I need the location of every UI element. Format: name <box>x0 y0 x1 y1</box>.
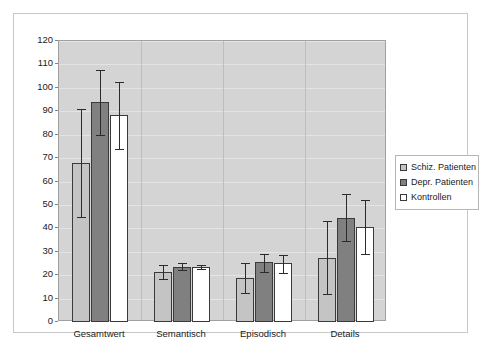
legend-label: Depr. Patienten <box>411 178 473 187</box>
y-axis-tick-label: 60 <box>22 176 53 186</box>
group-separator <box>141 41 142 320</box>
y-axis-tick <box>55 204 58 205</box>
chart-frame: 0102030405060708090100110120 GesamtwertS… <box>13 13 468 333</box>
y-axis-tick-label: 0 <box>22 316 53 326</box>
gridline <box>59 41 385 42</box>
y-axis-tick <box>55 134 58 135</box>
error-bar-cap-upper <box>197 265 206 266</box>
error-bar-cap-lower <box>260 272 269 273</box>
y-axis-tick <box>55 298 58 299</box>
y-axis-tick-label: 70 <box>22 152 53 162</box>
y-axis-tick <box>55 157 58 158</box>
error-bar-cap-upper <box>279 255 288 256</box>
y-axis-tick <box>55 63 58 64</box>
error-bar-cap-lower <box>115 149 124 150</box>
error-bar-cap-upper <box>342 194 351 195</box>
group-separator <box>223 41 224 320</box>
error-bar-stem <box>264 254 265 272</box>
error-bar-stem <box>365 200 366 254</box>
error-bar-cap-lower <box>77 217 86 218</box>
y-axis-tick-label: 20 <box>22 269 53 279</box>
error-bar-cap-upper <box>361 200 370 201</box>
x-axis-category-label: Gesamtwert <box>58 329 140 339</box>
error-bar-stem <box>163 265 164 279</box>
error-bar-cap-upper <box>178 263 187 264</box>
error-bar-cap-lower <box>178 270 187 271</box>
error-bar-stem <box>182 263 183 270</box>
error-bar-cap-upper <box>260 254 269 255</box>
error-bar-stem <box>119 82 120 149</box>
error-bar-cap-lower <box>159 279 168 280</box>
bar-chart: 0102030405060708090100110120 GesamtwertS… <box>0 0 483 355</box>
y-axis-tick <box>55 181 58 182</box>
error-bar-cap-upper <box>323 221 332 222</box>
plot-area <box>58 40 386 321</box>
legend-label: Kontrollen <box>411 193 452 202</box>
error-bar-cap-upper <box>159 265 168 266</box>
y-axis-tick <box>55 227 58 228</box>
error-bar-stem <box>81 109 82 217</box>
y-axis-tick-label: 100 <box>22 82 53 92</box>
bar <box>173 267 191 322</box>
error-bar-cap-upper <box>77 109 86 110</box>
y-axis-tick <box>55 251 58 252</box>
y-axis-tick-label: 10 <box>22 293 53 303</box>
gridline <box>59 64 385 65</box>
legend-label: Schiz. Patienten <box>411 163 476 172</box>
error-bar-cap-lower <box>323 294 332 295</box>
y-axis-tick <box>55 40 58 41</box>
gridline <box>59 88 385 89</box>
legend-swatch-icon <box>400 194 407 201</box>
x-axis-category-label: Details <box>304 329 386 339</box>
chart-legend: Schiz. PatientenDepr. PatientenKontrolle… <box>395 155 479 210</box>
bar <box>192 267 210 322</box>
legend-swatch-icon <box>400 179 407 186</box>
x-axis-category-label: Episodisch <box>222 329 304 339</box>
y-axis-tick-label: 120 <box>22 35 53 45</box>
error-bar-cap-lower <box>342 241 351 242</box>
error-bar-stem <box>100 70 101 134</box>
y-axis-tick-label: 30 <box>22 246 53 256</box>
y-axis-tick <box>55 87 58 88</box>
error-bar-stem <box>327 221 328 294</box>
error-bar-cap-lower <box>96 135 105 136</box>
y-axis-tick-label: 110 <box>22 59 53 69</box>
y-axis-tick-label: 50 <box>22 199 53 209</box>
y-axis-tick <box>55 274 58 275</box>
error-bar-stem <box>245 263 246 292</box>
legend-item[interactable]: Schiz. Patienten <box>400 160 474 175</box>
legend-swatch-icon <box>400 164 407 171</box>
error-bar-cap-upper <box>96 70 105 71</box>
error-bar-cap-upper <box>115 82 124 83</box>
x-axis-category-label: Semantisch <box>140 329 222 339</box>
y-axis-tick-label: 90 <box>22 106 53 116</box>
legend-item[interactable]: Kontrollen <box>400 190 474 205</box>
error-bar-cap-lower <box>279 273 288 274</box>
y-axis-tick <box>55 321 58 322</box>
legend-item[interactable]: Depr. Patienten <box>400 175 474 190</box>
y-axis-tick <box>55 110 58 111</box>
error-bar-cap-upper <box>241 263 250 264</box>
y-axis-tick-label: 80 <box>22 129 53 139</box>
group-separator <box>305 41 306 320</box>
error-bar-cap-lower <box>361 254 370 255</box>
error-bar-stem <box>283 255 284 273</box>
error-bar-cap-lower <box>197 269 206 270</box>
error-bar-stem <box>346 194 347 241</box>
y-axis-tick-label: 40 <box>22 223 53 233</box>
error-bar-cap-lower <box>241 293 250 294</box>
